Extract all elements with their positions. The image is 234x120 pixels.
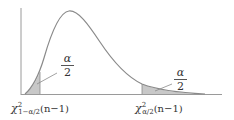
left-chi-symbol: χ — [11, 102, 18, 115]
left-area-numerator: α — [61, 53, 74, 64]
right-chi-argument: (n−1) — [154, 103, 183, 114]
left-chi-argument: (n−1) — [40, 103, 69, 114]
right-area-denominator: 2 — [174, 81, 187, 92]
right-chi-subscript: α/2 — [142, 108, 154, 116]
left-critical-value-label: χ21−α/2(n−1) — [11, 99, 69, 115]
chi-square-diagram: α 2 α 2 χ21−α/2(n−1) χ2α/2(n−1) — [0, 0, 234, 120]
left-area-label: α 2 — [61, 53, 74, 78]
left-area-denominator: 2 — [61, 67, 74, 78]
right-area-label: α 2 — [174, 67, 187, 92]
right-critical-value-label: χ2α/2(n−1) — [135, 99, 183, 115]
right-chi-symbol: χ — [135, 102, 142, 115]
left-chi-subscript: 1−α/2 — [18, 108, 40, 116]
right-area-numerator: α — [174, 67, 187, 78]
